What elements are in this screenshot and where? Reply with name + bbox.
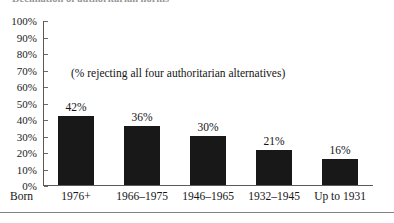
y-tick-label-70: 70% xyxy=(17,65,37,77)
bar xyxy=(124,126,160,185)
bar-value-label: 42% xyxy=(58,101,94,113)
y-tick-label-90: 90% xyxy=(17,32,37,44)
y-tick-0 xyxy=(44,186,48,187)
bar-group: 36% xyxy=(124,126,160,185)
bar-series: 42%36%30%21%16% xyxy=(43,21,373,186)
bar xyxy=(190,136,226,186)
category-row: Born 1976+1966–19751946–19651932–1945Up … xyxy=(0,190,394,206)
y-tick-label-20: 20% xyxy=(17,147,37,159)
y-tick-label-80: 80% xyxy=(17,48,37,60)
y-tick-label-30: 30% xyxy=(17,131,37,143)
y-tick-label-50: 50% xyxy=(17,98,37,110)
bar xyxy=(322,159,358,185)
y-tick-label-60: 60% xyxy=(17,81,37,93)
bar-group: 16% xyxy=(322,159,358,185)
bar-group: 21% xyxy=(256,150,292,185)
y-tick-label-10: 10% xyxy=(17,164,37,176)
y-tick-label-100: 100% xyxy=(11,15,37,27)
bar-value-label: 21% xyxy=(256,135,292,147)
bar-value-label: 30% xyxy=(190,121,226,133)
bar xyxy=(256,150,292,185)
bar-value-label: 16% xyxy=(322,144,358,156)
chart-figure: Declination of authoritarian norms 100%9… xyxy=(0,0,394,223)
bar-value-label: 36% xyxy=(124,111,160,123)
category-label: Up to 1931 xyxy=(290,190,390,202)
bar-group: 30% xyxy=(190,136,226,186)
bottom-divider xyxy=(0,212,394,213)
y-tick-label-40: 40% xyxy=(17,114,37,126)
bar xyxy=(58,116,94,185)
figure-title: Declination of authoritarian norms xyxy=(12,0,169,4)
bar-group: 42% xyxy=(58,116,94,185)
plot-area: 100%90%80%70%60%50%40%30%20%10%0% (% rej… xyxy=(43,21,373,186)
